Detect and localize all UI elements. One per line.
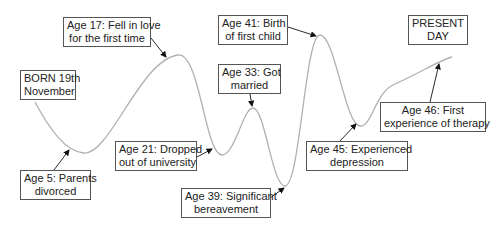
event-age41: Age 41: Birth of first child (218, 15, 288, 45)
event-age46-line1: Age 46: First (384, 104, 482, 117)
event-age41-line2: of first child (222, 30, 284, 43)
event-age5: Age 5: Parents divorced (20, 170, 91, 200)
event-present-day: PRESENT DAY (408, 15, 468, 45)
arrow-age33 (250, 94, 252, 106)
arrow-age46 (430, 64, 439, 102)
event-age17-line1: Age 17: Fell in love (67, 19, 147, 32)
event-age5-line1: Age 5: Parents (24, 172, 87, 185)
event-present-line1: PRESENT (412, 17, 464, 30)
event-age5-line2: divorced (24, 185, 87, 198)
event-age45-line2: depression (310, 156, 404, 169)
event-age17-line2: for the first time (67, 32, 147, 45)
event-age33: Age 33: Got married (218, 64, 281, 94)
event-age21-line1: Age 21: Dropped (119, 143, 193, 156)
arrow-age17 (151, 38, 166, 57)
event-age45-line1: Age 45: Experienced (310, 143, 404, 156)
event-age45: Age 45: Experienced depression (306, 141, 408, 171)
event-age17: Age 17: Fell in love for the first time (63, 17, 151, 47)
event-age21-line2: out of university (119, 156, 193, 169)
arrow-age45 (340, 124, 356, 141)
event-age21: Age 21: Dropped out of university (115, 141, 197, 171)
event-age46: Age 46: First experience of therapy (380, 102, 486, 132)
event-age39: Age 39: Significant bereavement (181, 188, 271, 218)
event-born-line1: BORN 19th (24, 72, 72, 85)
event-age46-line2: experience of therapy (384, 117, 482, 130)
event-age33-line2: married (222, 79, 277, 92)
arrow-age5 (54, 150, 69, 170)
event-age41-line1: Age 41: Birth (222, 17, 284, 30)
event-present-line2: DAY (412, 30, 464, 43)
event-age39-line2: bereavement (185, 203, 267, 216)
event-born-line2: November (24, 85, 72, 98)
arrow-age41 (288, 27, 316, 36)
event-born: BORN 19th November (20, 70, 76, 100)
event-age39-line1: Age 39: Significant (185, 190, 267, 203)
event-age33-line1: Age 33: Got (222, 66, 277, 79)
